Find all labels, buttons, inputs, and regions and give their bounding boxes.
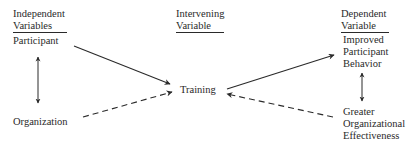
arrow-training-to-improved-behavior [227,55,334,89]
arrow-effectiveness-to-training [227,94,333,117]
arrow-participant-to-training [74,46,170,84]
arrow-organization-to-training [83,92,172,117]
arrows-layer [0,0,416,147]
